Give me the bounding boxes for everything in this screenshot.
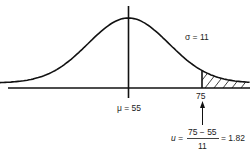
formula-denominator: 11 <box>198 141 207 151</box>
normal-curve-diagram: σ = 11 μ = 55 75 u = 75 − 55 11 = 1.82 <box>0 0 250 152</box>
sigma-label: σ = 11 <box>185 32 209 42</box>
hatch-line <box>241 70 250 88</box>
hatch-line <box>232 70 246 88</box>
cutoff-label: 75 <box>196 91 206 101</box>
formula-result: = 1.82 <box>221 133 245 143</box>
formula-lhs: u = <box>171 133 183 143</box>
arrow-head-icon <box>200 101 205 108</box>
normal-curve <box>0 18 250 83</box>
mean-label: μ = 55 <box>117 103 141 113</box>
formula-numerator: 75 − 55 <box>188 127 217 137</box>
